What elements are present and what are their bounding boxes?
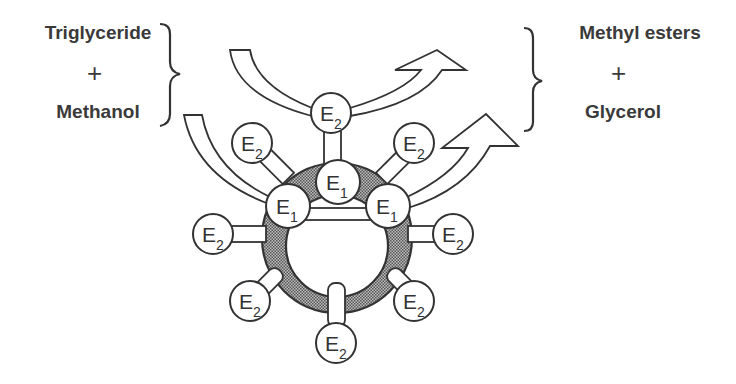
e2-node-lower-right: E 2 <box>394 281 434 321</box>
e2-node-lower-left: E 2 <box>230 281 270 321</box>
svg-text:2: 2 <box>255 146 263 162</box>
svg-text:E: E <box>320 102 334 125</box>
svg-text:2: 2 <box>253 304 261 320</box>
svg-text:E: E <box>276 195 290 218</box>
e2-node-upper-right: E 2 <box>394 123 434 163</box>
enzyme-diagram: E 1 E 1 E 1 E 2 E 2 E 2 E 2 E 2 E 2 <box>0 0 736 384</box>
e2-node-upper-left: E 2 <box>232 123 272 163</box>
svg-text:E: E <box>403 290 417 313</box>
svg-text:2: 2 <box>334 116 342 132</box>
e2-node-right: E 2 <box>433 214 473 254</box>
svg-text:E: E <box>202 223 216 246</box>
svg-text:2: 2 <box>216 237 224 253</box>
svg-text:E: E <box>325 332 339 355</box>
svg-text:2: 2 <box>417 146 425 162</box>
svg-text:2: 2 <box>339 346 347 362</box>
e2-node-bottom: E 2 <box>316 323 356 363</box>
svg-text:1: 1 <box>340 185 348 201</box>
e1-node-top: E 1 <box>316 160 360 204</box>
e1-node-left: E 1 <box>266 184 310 228</box>
svg-text:E: E <box>376 195 390 218</box>
e2-node-top: E 2 <box>311 93 351 133</box>
e2-node-left: E 2 <box>193 214 233 254</box>
svg-text:E: E <box>326 171 340 194</box>
svg-text:2: 2 <box>456 237 464 253</box>
svg-text:2: 2 <box>417 304 425 320</box>
svg-text:E: E <box>241 132 255 155</box>
left-brace <box>160 24 180 126</box>
e1-node-right: E 1 <box>366 184 410 228</box>
svg-text:1: 1 <box>290 209 298 225</box>
svg-text:1: 1 <box>390 209 398 225</box>
svg-text:E: E <box>442 223 456 246</box>
svg-text:E: E <box>239 290 253 313</box>
svg-text:E: E <box>403 132 417 155</box>
right-brace <box>524 28 542 131</box>
